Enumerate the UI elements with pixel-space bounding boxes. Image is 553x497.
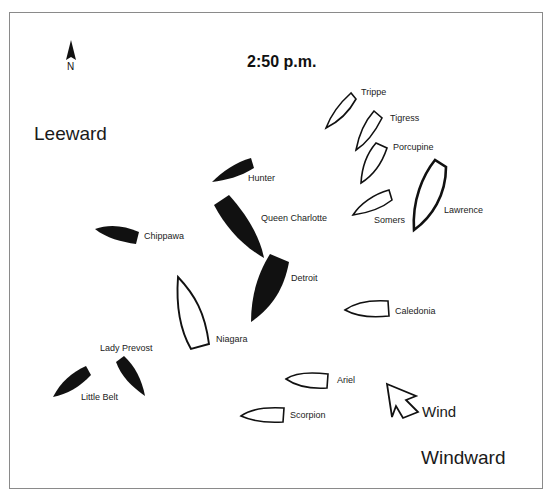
north-arrow-icon [66, 40, 76, 60]
wind-label: Wind [422, 403, 456, 420]
ship-label-queen-charlotte: Queen Charlotte [261, 213, 327, 223]
ship-label-niagara: Niagara [216, 334, 248, 344]
leeward-label: Leeward [34, 123, 107, 145]
ship-lady-prevost [116, 356, 145, 396]
ship-label-ariel: Ariel [337, 375, 355, 385]
ship-label-trippe: Trippe [361, 87, 386, 97]
time-title: 2:50 p.m. [247, 53, 316, 71]
ship-label-caledonia: Caledonia [395, 306, 436, 316]
ship-label-porcupine: Porcupine [393, 142, 434, 152]
ship-label-lawrence: Lawrence [444, 205, 483, 215]
windward-label: Windward [421, 447, 505, 469]
ship-label-lady-prevost: Lady Prevost [100, 343, 153, 353]
wind-arrow-icon [387, 384, 418, 418]
ship-porcupine [361, 143, 387, 183]
ship-label-somers: Somers [374, 215, 405, 225]
ship-trippe [326, 93, 356, 128]
ship-niagara [178, 277, 209, 349]
ship-lawrence [414, 160, 446, 230]
ship-detroit [251, 254, 289, 322]
ship-queen-charlotte [214, 195, 264, 258]
ship-label-tigress: Tigress [390, 113, 419, 123]
ship-chippawa [95, 226, 139, 244]
ship-label-hunter: Hunter [248, 173, 275, 183]
ship-somers [353, 190, 392, 215]
ship-scorpion [241, 408, 284, 423]
ship-caledonia [345, 301, 389, 317]
north-label: N [67, 61, 74, 72]
ship-label-detroit: Detroit [291, 273, 318, 283]
ship-ariel [286, 373, 328, 388]
ship-label-chippawa: Chippawa [144, 231, 184, 241]
battle-map [0, 0, 553, 497]
ship-label-scorpion: Scorpion [290, 410, 326, 420]
ship-label-little-belt: Little Belt [81, 392, 118, 402]
